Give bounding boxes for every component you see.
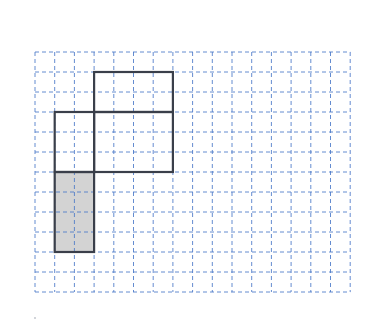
right-rectangle	[94, 112, 173, 172]
left-rectangle	[55, 112, 94, 172]
shaded-rectangle-fill	[55, 172, 94, 252]
shaded-layer	[55, 172, 94, 252]
speck	[34, 317, 36, 319]
grid-diagram	[0, 0, 372, 321]
